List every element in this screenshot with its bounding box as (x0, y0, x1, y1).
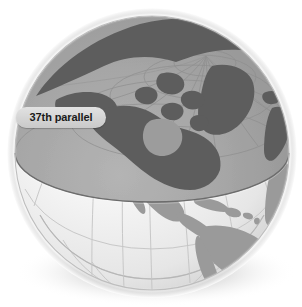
parallel-37-callout[interactable]: 37th parallel (16, 107, 106, 128)
globe-illustration (0, 0, 302, 307)
globe-figure: 37th parallel (0, 0, 302, 307)
globe-halo (7, 8, 297, 298)
parallel-37-callout-label: 37th parallel (30, 112, 93, 123)
